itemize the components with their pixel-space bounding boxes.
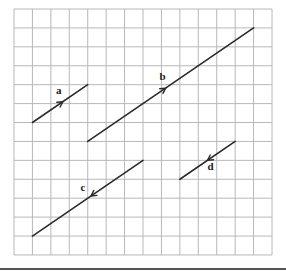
- vector-label: b: [160, 70, 166, 82]
- vector-label: c: [81, 181, 86, 193]
- grid: [14, 9, 272, 255]
- vector-label: a: [56, 84, 62, 96]
- vector-diagram: abcd: [0, 0, 286, 271]
- vector-label: d: [207, 160, 213, 172]
